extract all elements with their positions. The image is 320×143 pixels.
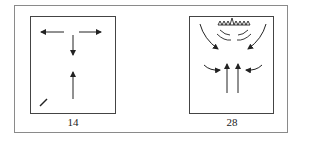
panel-14-label: 14: [53, 116, 93, 128]
airflow-arrows-icon: [31, 17, 117, 115]
panel-28-label: 28: [212, 116, 252, 128]
heat-convection-icon: [190, 17, 275, 115]
panel-14-diagram: [30, 16, 116, 114]
panel-28-diagram: [189, 16, 274, 114]
